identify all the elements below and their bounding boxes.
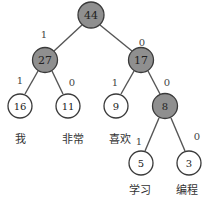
edge-label-17-8: 0 [164,77,170,88]
node-value: 17 [134,54,148,67]
edge-label-44-27: 1 [41,29,47,40]
node-8: 8 [153,94,178,119]
edge-27-11 [52,71,63,94]
node-11: 11 [56,94,80,118]
leaf-word-labels: 我 非常 喜欢 学习 编程 [15,132,199,197]
edge-label-17-9: 1 [112,77,118,88]
edge-label-44-17: 0 [139,37,145,48]
node-value: 3 [186,158,192,169]
edge-44-17 [100,25,132,51]
node-value: 44 [84,9,98,22]
node-16: 16 [8,94,32,118]
edge-8-5 [145,118,159,151]
node-3: 3 [177,151,201,175]
node-5: 5 [129,151,153,175]
edge-labels: 1 0 1 0 1 0 1 0 [17,29,200,147]
edge-17-9 [121,71,134,94]
edge-17-8 [148,71,160,94]
node-9: 9 [104,94,128,118]
node-value: 16 [14,101,27,112]
word-label-16: 我 [15,133,26,146]
word-label-9: 喜欢 [109,132,131,146]
node-value: 5 [138,158,144,169]
huffman-tree-diagram: 1 0 1 0 1 0 1 0 44 27 17 16 11 9 8 5 [0,0,206,204]
edge-8-3 [171,118,185,151]
node-value: 27 [38,54,52,67]
node-value: 8 [162,101,168,112]
word-label-3: 编程 [176,183,198,197]
node-17: 17 [129,48,154,73]
edges [25,25,185,151]
edge-44-27 [54,25,82,51]
word-label-5: 学习 [129,183,151,197]
edge-label-8-3: 0 [194,131,200,142]
node-value: 9 [113,101,119,112]
word-label-11: 非常 [62,133,84,146]
node-44: 44 [78,2,104,28]
edge-label-27-16: 1 [17,75,23,86]
edge-label-8-5: 1 [136,136,142,147]
edge-label-27-11: 0 [69,77,75,88]
edge-27-16 [25,71,38,94]
node-value: 11 [62,101,75,112]
node-27: 27 [33,48,58,73]
